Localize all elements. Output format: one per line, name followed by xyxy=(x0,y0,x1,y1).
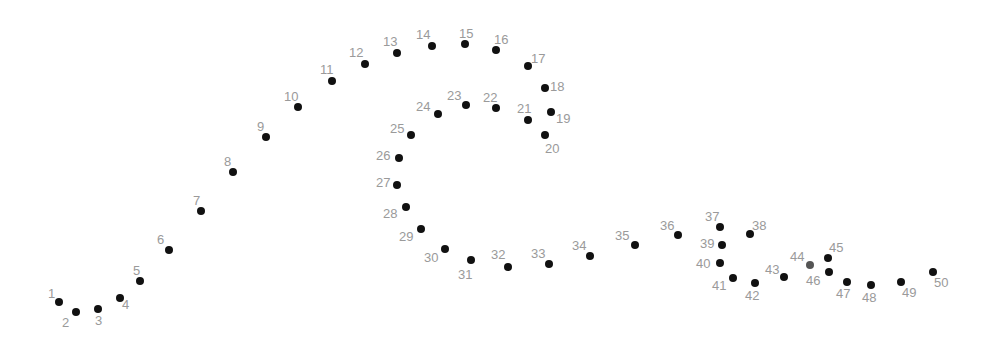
dot-label: 8 xyxy=(224,155,231,168)
dot-label: 47 xyxy=(836,287,850,300)
dot-label: 11 xyxy=(320,63,334,76)
dot-9 xyxy=(262,133,270,141)
dot-label: 48 xyxy=(862,291,876,304)
dot-25 xyxy=(407,131,415,139)
dot-label: 49 xyxy=(902,286,916,299)
dot-label: 22 xyxy=(483,91,497,104)
dot-6 xyxy=(165,246,173,254)
dot-10 xyxy=(294,103,302,111)
dot-37 xyxy=(716,223,724,231)
dot-14 xyxy=(428,42,436,50)
dot-label: 3 xyxy=(95,314,102,327)
dot-44 xyxy=(806,261,814,269)
dot-label: 13 xyxy=(383,35,397,48)
dot-label: 26 xyxy=(376,149,390,162)
dot-label: 38 xyxy=(752,219,766,232)
dot-label: 35 xyxy=(615,229,629,242)
dot-43 xyxy=(780,273,788,281)
dot-label: 17 xyxy=(531,52,545,65)
dot-label: 2 xyxy=(62,316,69,329)
dot-label: 46 xyxy=(806,274,820,287)
dot-label: 24 xyxy=(416,100,430,113)
dot-21 xyxy=(524,116,532,124)
dot-label: 10 xyxy=(284,90,298,103)
dot-label: 39 xyxy=(700,237,714,250)
dot-31 xyxy=(467,256,475,264)
dot-label: 12 xyxy=(349,46,363,59)
dot-label: 41 xyxy=(712,279,726,292)
dot-11 xyxy=(328,77,336,85)
dot-26 xyxy=(395,154,403,162)
dot-16 xyxy=(492,46,500,54)
dot-30 xyxy=(441,245,449,253)
dot-19 xyxy=(547,108,555,116)
dot-33 xyxy=(545,260,553,268)
dot-label: 16 xyxy=(494,33,508,46)
dot-label: 15 xyxy=(459,27,473,40)
dot-label: 42 xyxy=(745,289,759,302)
dot-47 xyxy=(843,278,851,286)
dot-8 xyxy=(229,168,237,176)
dot-27 xyxy=(393,181,401,189)
dot-label: 30 xyxy=(424,251,438,264)
dot-15 xyxy=(461,40,469,48)
dot-label: 36 xyxy=(660,219,674,232)
dot-label: 33 xyxy=(531,247,545,260)
dot-label: 32 xyxy=(491,248,505,261)
dot-34 xyxy=(586,252,594,260)
dot-46 xyxy=(825,268,833,276)
dot-22 xyxy=(492,104,500,112)
dot-35 xyxy=(631,241,639,249)
dot-label: 29 xyxy=(399,230,413,243)
dot-label: 40 xyxy=(696,257,710,270)
dot-36 xyxy=(674,231,682,239)
dot-39 xyxy=(718,241,726,249)
dot-5 xyxy=(136,277,144,285)
dot-to-dot-canvas: 1234567891011121314151617181920212223242… xyxy=(0,0,1003,343)
dot-label: 1 xyxy=(48,287,55,300)
dot-label: 31 xyxy=(458,268,472,281)
dot-label: 21 xyxy=(517,102,531,115)
dot-28 xyxy=(402,203,410,211)
dot-42 xyxy=(751,279,759,287)
dot-label: 4 xyxy=(122,298,129,311)
dot-13 xyxy=(393,49,401,57)
dot-12 xyxy=(361,60,369,68)
dot-label: 20 xyxy=(545,142,559,155)
dot-label: 44 xyxy=(790,250,804,263)
dot-label: 5 xyxy=(133,264,140,277)
dot-3 xyxy=(94,305,102,313)
dot-7 xyxy=(197,207,205,215)
dot-label: 7 xyxy=(193,194,200,207)
dot-2 xyxy=(72,308,80,316)
dot-label: 34 xyxy=(572,239,586,252)
dot-label: 23 xyxy=(447,89,461,102)
dot-32 xyxy=(504,263,512,271)
dot-label: 6 xyxy=(157,233,164,246)
dot-label: 27 xyxy=(376,176,390,189)
dot-24 xyxy=(434,110,442,118)
dot-label: 37 xyxy=(705,210,719,223)
dot-label: 19 xyxy=(556,112,570,125)
dot-40 xyxy=(716,259,724,267)
dot-label: 18 xyxy=(550,80,564,93)
dot-1 xyxy=(55,298,63,306)
dot-29 xyxy=(417,225,425,233)
dot-label: 14 xyxy=(416,28,430,41)
dot-label: 25 xyxy=(390,122,404,135)
dot-23 xyxy=(462,101,470,109)
dot-label: 28 xyxy=(383,207,397,220)
dot-label: 45 xyxy=(829,241,843,254)
dot-label: 9 xyxy=(257,120,264,133)
dot-45 xyxy=(824,254,832,262)
dot-48 xyxy=(867,281,875,289)
dot-18 xyxy=(541,84,549,92)
dot-label: 50 xyxy=(934,276,948,289)
dot-label: 43 xyxy=(765,263,779,276)
dot-20 xyxy=(541,131,549,139)
dot-41 xyxy=(729,274,737,282)
